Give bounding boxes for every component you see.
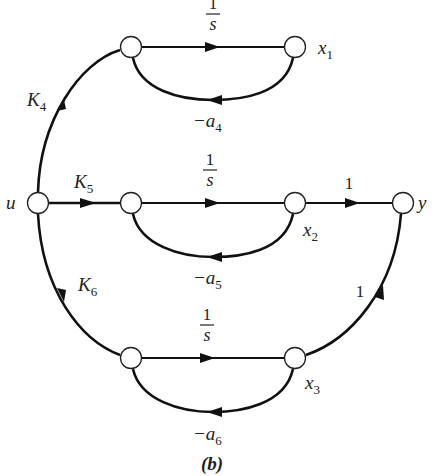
gain-mid-den: s [206,170,213,190]
arrow-mid-feedback [207,252,222,262]
node-x1 [285,37,306,58]
edge-mid-feedback [133,214,293,257]
label-k4: K4 [26,89,47,114]
node-x2 [285,193,306,214]
figure-caption: (b) [201,453,223,475]
edge-top-feedback [133,58,293,100]
gain-x3-y: 1 [356,282,365,301]
arrow-bot-forward [200,353,215,363]
node-x3 [285,348,306,369]
label-x2: x2 [302,219,318,244]
gain-mid-num: 1 [206,150,215,169]
node-y [393,193,414,214]
label-x3: x3 [304,372,320,397]
arrow-x2-y [345,198,360,208]
arrow-k5 [80,198,96,208]
label-minus-a6: −a6 [193,423,222,448]
gain-top-den: s [209,14,216,34]
label-k6: K6 [77,274,98,299]
label-u: u [6,192,16,213]
node-top-in [121,37,142,58]
signal-flow-graph: 1 s x1 K4 −a4 K5 1 s 1 u y x2 −a5 K6 1 1… [0,0,434,476]
arrow-mid-forward [205,198,220,208]
gain-bot-num: 1 [203,305,212,324]
arrow-bot-feedback [207,407,222,417]
node-u [28,193,49,214]
node-mid-in [121,193,142,214]
node-bot-in [121,348,142,369]
label-y: y [416,192,427,213]
edge-bot-feedback [133,369,293,412]
label-x1: x1 [317,37,333,62]
edge-x3-y [306,214,401,355]
label-minus-a5: −a5 [193,267,222,292]
gain-x2-y: 1 [345,174,354,193]
arrow-top-feedback [207,95,222,105]
gain-top-num: 1 [209,0,218,13]
label-k5: K5 [73,171,93,196]
gain-bot-den: s [203,325,210,345]
label-minus-a4: −a4 [193,110,222,135]
arrow-top-forward [205,42,220,52]
